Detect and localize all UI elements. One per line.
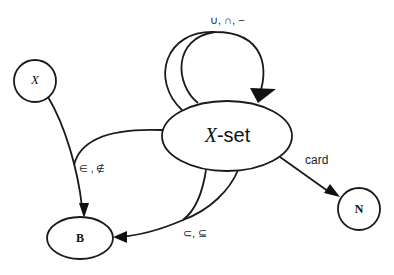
node-xset-label-rest: -set: [217, 124, 250, 146]
edge-xset-to-b-subset-main: [118, 220, 183, 237]
node-n-label: N: [349, 202, 369, 217]
edge-x-to-b: [48, 97, 82, 207]
node-xset-label: X-set: [180, 124, 275, 147]
node-xset-label-italic: X: [205, 124, 217, 146]
edge-xset-to-b-member: [74, 130, 162, 165]
arrowhead-card: [324, 184, 340, 197]
edge-xset-loop-outer: [165, 32, 263, 110]
edge-label-subset: ⊂, ⊆: [183, 227, 207, 240]
arrowhead-x-to-b: [79, 203, 89, 218]
edge-label-loop: ∪, ∩, −: [210, 14, 245, 27]
edge-label-member: ∈ , ∉: [79, 163, 105, 174]
arrowhead-loop: [250, 88, 276, 103]
node-x-label: X: [25, 72, 45, 88]
edge-xset-to-b-subset-a: [183, 170, 206, 220]
arrowhead-subset: [113, 231, 127, 243]
edge-label-card: card: [305, 153, 328, 167]
edge-xset-loop-inner: [181, 32, 215, 103]
node-b-label: B: [70, 231, 90, 246]
